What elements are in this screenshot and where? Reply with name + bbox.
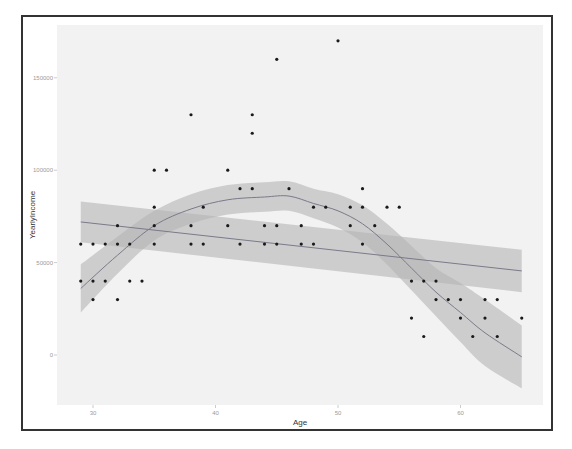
data-point	[251, 113, 254, 116]
data-point	[140, 279, 143, 282]
data-point	[238, 243, 241, 246]
data-point	[434, 279, 437, 282]
data-point	[459, 298, 462, 301]
data-point	[312, 206, 315, 209]
data-point	[116, 298, 119, 301]
data-point	[128, 279, 131, 282]
data-point	[153, 169, 156, 172]
data-point	[300, 224, 303, 227]
data-point	[349, 224, 352, 227]
data-point	[189, 243, 192, 246]
data-point	[263, 224, 266, 227]
data-point	[189, 113, 192, 116]
data-point	[189, 224, 192, 227]
data-point	[300, 243, 303, 246]
data-point	[410, 316, 413, 319]
data-point	[153, 243, 156, 246]
data-point	[385, 206, 388, 209]
data-point	[91, 279, 94, 282]
data-point	[287, 187, 290, 190]
data-point	[153, 224, 156, 227]
data-point	[336, 39, 339, 42]
data-point	[312, 243, 315, 246]
data-point	[349, 206, 352, 209]
data-point	[410, 279, 413, 282]
data-point	[422, 279, 425, 282]
data-point	[202, 243, 205, 246]
x-tick-label: 50	[335, 410, 342, 416]
y-tick-label: 50000	[36, 260, 53, 266]
data-point	[104, 243, 107, 246]
data-point	[153, 206, 156, 209]
data-point	[275, 58, 278, 61]
data-point	[471, 335, 474, 338]
data-point	[459, 316, 462, 319]
data-point	[91, 243, 94, 246]
data-point	[165, 169, 168, 172]
data-point	[422, 335, 425, 338]
data-point	[373, 224, 376, 227]
y-tick-label: 0	[50, 352, 54, 358]
x-tick-label: 60	[457, 410, 464, 416]
data-point	[226, 224, 229, 227]
data-point	[226, 169, 229, 172]
data-point	[361, 206, 364, 209]
data-point	[79, 243, 82, 246]
data-point	[275, 243, 278, 246]
data-point	[238, 187, 241, 190]
data-point	[91, 298, 94, 301]
data-point	[361, 243, 364, 246]
data-point	[79, 279, 82, 282]
data-point	[116, 224, 119, 227]
data-point	[398, 206, 401, 209]
data-point	[496, 298, 499, 301]
data-point	[128, 243, 131, 246]
data-point	[275, 224, 278, 227]
data-point	[251, 187, 254, 190]
data-point	[434, 298, 437, 301]
data-point	[251, 132, 254, 135]
y-tick-label: 150000	[33, 75, 54, 81]
data-point	[483, 298, 486, 301]
x-tick-label: 30	[90, 410, 97, 416]
x-axis-title: Age	[293, 418, 308, 427]
data-point	[116, 243, 119, 246]
data-point	[447, 298, 450, 301]
data-point	[496, 335, 499, 338]
scatter-plot: 30405060 050000100000150000 Age YearlyIn…	[0, 0, 572, 449]
data-point	[483, 316, 486, 319]
data-point	[520, 316, 523, 319]
data-point	[324, 206, 327, 209]
data-point	[202, 206, 205, 209]
y-axis-title: YearlyIncome	[28, 190, 37, 239]
x-axis: 30405060	[90, 405, 465, 416]
x-tick-label: 40	[212, 410, 219, 416]
data-point	[104, 279, 107, 282]
data-point	[263, 243, 266, 246]
data-point	[361, 187, 364, 190]
y-tick-label: 100000	[33, 167, 54, 173]
